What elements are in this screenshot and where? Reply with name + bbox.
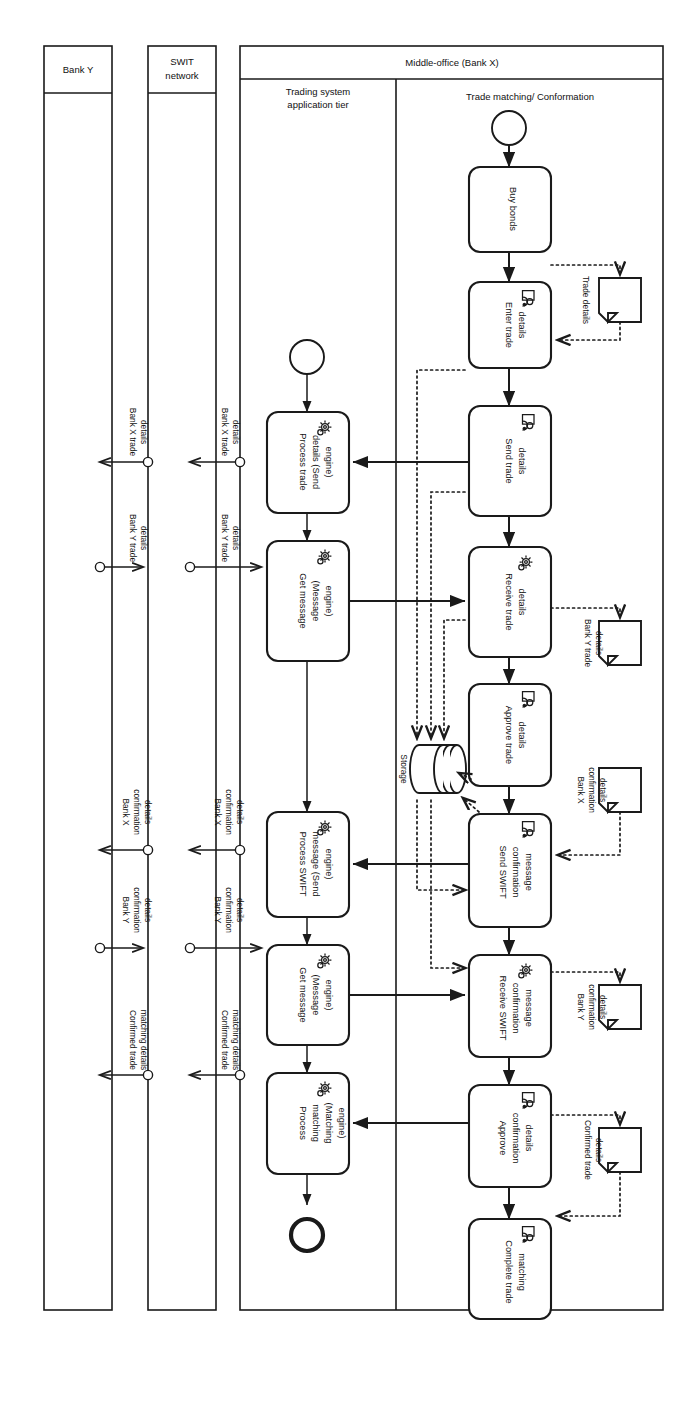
- svg-text:Process: Process: [298, 1106, 308, 1140]
- svg-text:Get message: Get message: [298, 967, 308, 1022]
- svg-text:confirmation: confirmation: [132, 789, 142, 835]
- svg-text:confirmation: confirmation: [587, 984, 597, 1030]
- msg-label-bank-x-trade-details-2: Bank X trade: [128, 408, 138, 457]
- svg-text:Confirmed trade: Confirmed trade: [583, 1120, 593, 1180]
- svg-text:Enter trade: Enter trade: [504, 302, 514, 348]
- task-send-swift-confirmation-message[interactable]: Send SWIFT confirmation message: [469, 814, 551, 927]
- svg-text:confirmation: confirmation: [511, 983, 521, 1034]
- svg-text:details: details: [517, 312, 527, 339]
- pool-middle-office-label: Middle-office (Bank X): [405, 57, 498, 68]
- svg-text:confirmation: confirmation: [511, 847, 521, 898]
- svg-text:engine): engine): [324, 979, 334, 1010]
- msg-label-bank-x-confirmation-1: Bank X: [213, 798, 223, 825]
- svg-text:matching details: matching details: [139, 1010, 149, 1071]
- svg-text:Bank X: Bank X: [576, 776, 586, 803]
- svg-text:details: details: [517, 722, 527, 749]
- lane-trade-matching-label: Trade matching/ Conformation: [466, 91, 594, 102]
- task-receive-swift-confirmation-message[interactable]: Receive SWIFT confirmation message: [469, 955, 551, 1057]
- task-buy-bonds[interactable]: Buy bonds: [469, 167, 551, 252]
- svg-text:confirmation: confirmation: [224, 887, 234, 933]
- data-object-confirmed-trade-details: Confirmed trade details: [583, 1120, 641, 1180]
- svg-text:details: details: [235, 898, 245, 922]
- task-complete-trade-matching[interactable]: Complete trade matching: [469, 1219, 551, 1319]
- svg-text:Approve trade: Approve trade: [504, 706, 514, 764]
- svg-text:Send SWIFT: Send SWIFT: [498, 845, 508, 899]
- message-flows: Bank X trade details Bank X trade detail…: [95, 408, 261, 1080]
- svg-text:confirmation: confirmation: [224, 789, 234, 835]
- data-store-storage: Storage: [399, 745, 466, 793]
- assoc-bank-y-trade-details: [551, 608, 620, 617]
- svg-text:details (Send: details (Send: [311, 435, 321, 489]
- task-receive-trade-details[interactable]: Receive trade details: [469, 547, 551, 657]
- svg-text:Bank Y: Bank Y: [576, 994, 586, 1021]
- svg-text:details: details: [143, 800, 153, 824]
- svg-text:message: message: [524, 989, 534, 1027]
- svg-text:message (Send: message (Send: [311, 831, 321, 896]
- task-approve-confirmation-details[interactable]: Approve confirmation details: [469, 1085, 551, 1187]
- msg-label-bank-y-trade-details-2: Bank Y trade: [220, 514, 230, 562]
- svg-text:Receive trade: Receive trade: [504, 573, 514, 630]
- task-process-matching-matching-engine[interactable]: Process matching (Matching engine): [267, 1073, 349, 1174]
- pool-swift-label-line2: network: [165, 70, 199, 81]
- svg-text:Complete trade: Complete trade: [504, 1240, 514, 1304]
- svg-text:details: details: [517, 448, 527, 475]
- svg-text:Get message: Get message: [298, 573, 308, 628]
- task-buy-bonds-label: Buy bonds: [508, 187, 518, 231]
- svg-text:details: details: [517, 589, 527, 616]
- task-get-message-1[interactable]: Get message (Message engine): [267, 541, 349, 661]
- svg-text:engine): engine): [324, 585, 334, 616]
- msg-label-bank-y-confirmation-2: Bank Y: [213, 897, 223, 924]
- task-send-trade-details[interactable]: Send trade details: [469, 406, 551, 516]
- svg-text:details: details: [594, 631, 604, 655]
- svg-text:details: details: [231, 526, 241, 550]
- svg-text:Process trade: Process trade: [298, 433, 308, 490]
- task-process-trade-details-send-engine[interactable]: Process trade details (Send engine): [267, 412, 349, 513]
- svg-text:details: details: [235, 800, 245, 824]
- task-approve-trade-details[interactable]: Approve trade details: [469, 684, 551, 786]
- msg-label-bank-y-trade-details-1: Bank Y trade: [128, 514, 138, 562]
- task-enter-trade-details[interactable]: Enter trade details: [469, 282, 551, 368]
- msg-label-bank-y-confirmation-1: Bank Y: [121, 897, 131, 924]
- svg-text:details: details: [139, 526, 149, 550]
- svg-text:(Message: (Message: [311, 581, 321, 622]
- pool-bank-y-label: Bank Y: [63, 64, 94, 75]
- pool-bank-y: Bank Y: [44, 46, 112, 1310]
- svg-text:Send trade: Send trade: [504, 438, 514, 484]
- lane-trading-tier-label-line1: Trading system: [286, 86, 351, 97]
- svg-text:Process SWIFT: Process SWIFT: [298, 831, 308, 896]
- svg-text:confirmation: confirmation: [587, 767, 597, 813]
- svg-text:matching details: matching details: [231, 1010, 241, 1071]
- bpmn-diagram-canvas: Bank Y SWIT network Middle-office (Bank …: [0, 0, 691, 1402]
- svg-text:details: details: [143, 898, 153, 922]
- data-object-bank-y-trade-details: Bank Y trade details: [583, 619, 641, 667]
- task-process-swift-message-send-engine[interactable]: Process SWIFT message (Send engine): [267, 812, 349, 917]
- svg-text:matching: matching: [311, 1104, 321, 1142]
- svg-text:engine): engine): [337, 1107, 347, 1138]
- svg-text:Bank Y trade: Bank Y trade: [583, 619, 593, 667]
- start-event-trading-tier: [290, 340, 324, 374]
- pool-swift-label-line1: SWIT: [170, 56, 194, 67]
- assoc-bank-x-confirmation-details: [558, 812, 620, 855]
- svg-text:details: details: [598, 778, 608, 802]
- svg-text:(Message: (Message: [311, 975, 321, 1016]
- data-store-label: Storage: [399, 754, 409, 784]
- svg-text:confirmation: confirmation: [132, 887, 142, 933]
- svg-text:engine): engine): [324, 848, 334, 879]
- svg-text:engine): engine): [324, 446, 334, 477]
- end-event-trading-tier: [291, 1219, 323, 1251]
- svg-text:details: details: [598, 995, 608, 1019]
- svg-text:Approve: Approve: [498, 1121, 508, 1156]
- assoc-bank-y-confirmation-details: [551, 972, 620, 981]
- svg-text:details: details: [594, 1138, 604, 1162]
- msg-label-confirmed-trade-matching-1: Confirmed trade: [220, 1010, 230, 1070]
- svg-text:details: details: [231, 420, 241, 444]
- svg-text:message: message: [524, 853, 534, 891]
- lane-trading-tier-label-line2: application tier: [287, 99, 348, 110]
- svg-text:matching: matching: [517, 1253, 527, 1291]
- data-object-trade-details: Trade details: [581, 276, 641, 324]
- pool-swift-network: SWIT network: [148, 46, 216, 1310]
- data-object-trade-details-label: Trade details: [581, 276, 591, 324]
- svg-text:details: details: [524, 1125, 534, 1152]
- msg-label-bank-x-confirmation-2: Bank X: [121, 798, 131, 825]
- task-get-message-2[interactable]: Get message (Message engine): [267, 945, 349, 1045]
